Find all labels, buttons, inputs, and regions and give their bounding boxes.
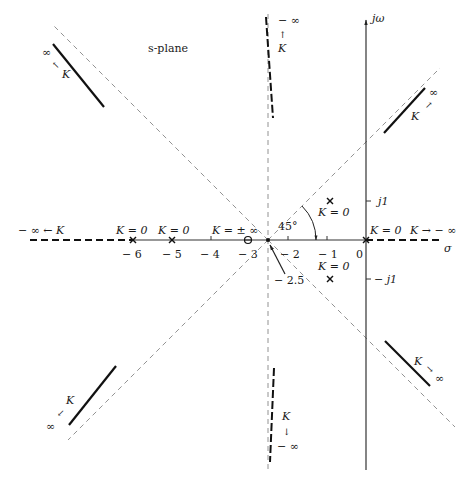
label-ll-arrow: ↙ <box>57 408 65 418</box>
pole-label-lower: K = 0 <box>317 260 349 273</box>
locus-upper-left <box>53 44 104 107</box>
label-ur-arrow: ↗ <box>425 100 433 110</box>
locus-upper-vertical <box>266 17 273 118</box>
label-ll-inf: ∞ <box>46 420 55 433</box>
label-up-inf: − ∞ <box>278 14 300 27</box>
label-ul-arrow: ↖ <box>52 60 60 70</box>
label-ur-k: K <box>410 110 420 123</box>
label-lr-arrow: ↘ <box>426 364 434 374</box>
pole-upper <box>327 198 333 204</box>
tick-label-neg4: − 4 <box>200 248 220 261</box>
tick-label-neg6: − 6 <box>122 248 142 261</box>
label-up-arrow: ↑ <box>279 30 287 40</box>
label-down-inf: − ∞ <box>277 440 299 453</box>
angle-label: 45° <box>278 220 298 233</box>
asymptote-lower-right <box>268 240 455 427</box>
pole-label-neg5: K = 0 <box>157 224 189 237</box>
label-ul-k: K <box>61 68 71 81</box>
pole-lower <box>327 276 333 282</box>
asymptote-lower-left <box>68 240 268 440</box>
asymptotes <box>52 14 455 470</box>
root-locus-diagram: jω σ − 6 − 5 − 4 − 3 − 2 − 1 0 j1 − j1 s… <box>0 0 466 491</box>
label-down-k: K <box>281 410 291 423</box>
plane-title: s-plane <box>148 42 188 55</box>
label-right-real: K → − ∞ <box>409 224 456 237</box>
tick-label-neg2: − 2 <box>280 248 300 261</box>
zero-label: K = ± ∞ <box>211 224 258 237</box>
label-down-arrow: ↓ <box>283 427 291 437</box>
real-axis-label: σ <box>444 242 452 255</box>
centroid-label: − 2.5 <box>274 274 304 287</box>
tick-label-neg-j1: − j1 <box>374 273 397 286</box>
label-lr-inf: ∞ <box>435 372 444 385</box>
tick-label-j1: j1 <box>375 195 388 208</box>
label-lr-k: K <box>413 355 423 368</box>
tick-label-neg3: − 3 <box>238 248 258 261</box>
asymptote-upper-left <box>52 24 268 240</box>
label-ll-k: K <box>65 394 75 407</box>
tick-label-neg5: − 5 <box>162 248 182 261</box>
pole-label-neg6: K = 0 <box>115 224 147 237</box>
centroid-point <box>266 238 270 242</box>
locus-lower-left <box>69 366 116 425</box>
label-ul-inf: ∞ <box>42 46 51 59</box>
label-ur-inf: ∞ <box>429 86 438 99</box>
locus-lower-vertical <box>270 368 274 462</box>
pole-label-upper: K = 0 <box>317 206 349 219</box>
tick-label-0: 0 <box>356 248 363 261</box>
label-left-real: − ∞ ← K <box>18 224 65 237</box>
label-up-k: K <box>277 42 287 55</box>
imag-axis-label: jω <box>369 12 384 25</box>
pole-label-origin: K = 0 <box>369 224 401 237</box>
angle-arc <box>302 206 316 240</box>
asymptote-upper-right <box>268 68 440 240</box>
